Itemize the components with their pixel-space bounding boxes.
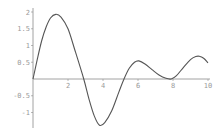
y-tick-label: 1.5 (17, 25, 30, 33)
x-tick-label: 2 (66, 82, 70, 90)
line-chart: 246810 -1-0.50.511.52 (0, 0, 224, 137)
y-axis (31, 8, 33, 128)
y-tick-label: -1 (22, 109, 30, 117)
x-tick-labels: 246810 (66, 82, 212, 90)
x-tick-label: 6 (136, 82, 140, 90)
plot-series (33, 14, 208, 125)
x-tick-label: 10 (204, 82, 212, 90)
y-tick-label: 0.5 (17, 59, 30, 67)
y-tick-labels: -1-0.50.511.52 (13, 9, 30, 118)
series-line (33, 14, 208, 125)
x-axis (33, 79, 210, 81)
y-tick-label: 1 (26, 42, 30, 50)
x-tick-label: 4 (101, 82, 105, 90)
y-tick-label: 2 (26, 9, 30, 17)
x-tick-label: 8 (171, 82, 175, 90)
y-tick-label: -0.5 (13, 92, 30, 100)
